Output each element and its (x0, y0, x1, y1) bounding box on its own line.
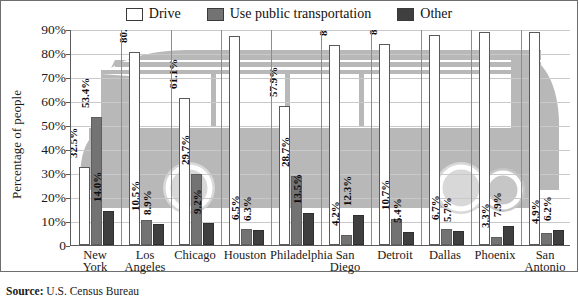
bar-value-label: 80.6% (118, 30, 129, 43)
x-tick-label-line: Philadelphia (270, 249, 320, 261)
bar-public[interactable]: 4.2% (341, 235, 352, 245)
x-axis-tick-labels: NewYorkLosAngelesChicagoHoustonPhiladelp… (70, 249, 570, 275)
legend-entry-label: Drive (149, 7, 181, 21)
y-tick-label: 0 (20, 239, 66, 253)
bar-value-label: 10.7% (380, 180, 391, 210)
bar-value-label: 13.5% (292, 173, 303, 203)
bar-group: 32.5%53.4%14.0% (71, 30, 121, 245)
x-tick-label: Phoenix (470, 249, 520, 261)
x-tick-label: Detroit (370, 249, 420, 261)
bar-other[interactable]: 6.2% (553, 230, 564, 245)
group-separator (421, 30, 422, 245)
bar-value-label: 4.9% (530, 200, 541, 225)
bar-other[interactable]: 13.5% (303, 213, 314, 245)
x-tick-label: Dallas (420, 249, 470, 261)
bar-value-label: 3.3% (480, 203, 491, 228)
bar-group: 88.8%3.3%7.9% (471, 30, 521, 245)
bar-other[interactable]: 5.4% (403, 232, 414, 245)
y-tick-mark (66, 198, 70, 199)
bar-drive[interactable]: 57.9% (279, 106, 290, 245)
bar-value-label: 9.2% (192, 189, 203, 214)
bar-value-label: 28.7% (280, 137, 291, 167)
bar-value-label: 4.2% (330, 201, 341, 226)
x-tick-label: SanAntonio (520, 249, 570, 273)
bar-value-label: 5.7% (442, 198, 453, 223)
x-tick-label-line: Phoenix (470, 249, 520, 261)
bar-drive[interactable]: 32.5% (79, 167, 90, 245)
y-tick-label: 10% (20, 215, 66, 229)
x-tick-label-line: Dallas (420, 249, 470, 261)
bar-value-label: 6.3% (242, 196, 253, 221)
bar-drive[interactable]: 61.1% (179, 98, 190, 245)
source-note: Source: U.S. Census Bureau (6, 286, 139, 298)
bar-group: 88.9%4.9%6.2% (521, 30, 570, 245)
group-separator (171, 30, 172, 245)
bar-drive[interactable]: 83.9% (379, 44, 390, 245)
x-tick-label-line: Houston (220, 249, 270, 261)
bar-value-label: 6.5% (230, 196, 241, 221)
bar-public[interactable]: 4.9% (541, 233, 552, 245)
bar-value-label: 5.4% (392, 198, 403, 223)
bar-value-label: 8.9% (142, 190, 153, 215)
bar-other[interactable]: 12.3% (353, 215, 364, 245)
bar-other[interactable]: 6.3% (253, 230, 264, 245)
group-separator (271, 30, 272, 245)
y-tick-mark (66, 246, 70, 247)
bar-public[interactable]: 3.3% (491, 237, 502, 245)
bar-value-label: 14.0% (92, 172, 103, 202)
bar-group: 57.9%28.7%13.5% (271, 30, 321, 245)
y-tick-mark (66, 54, 70, 55)
bar-other[interactable]: 14.0% (103, 211, 114, 245)
y-tick-label: 40% (20, 143, 66, 157)
y-axis-tick-labels: 010%20%30%40%50%60%70%80%90% (14, 30, 66, 246)
bar-value-label: 12.3% (342, 176, 353, 206)
x-tick-label-line: Chicago (170, 249, 220, 261)
legend-swatch-public (207, 8, 224, 21)
source-label: Source: (6, 285, 43, 297)
group-separator (521, 30, 522, 245)
y-tick-label: 60% (20, 95, 66, 109)
bar-other[interactable]: 5.7% (453, 231, 464, 245)
bar-drive[interactable]: 80.6% (129, 52, 140, 245)
bar-public[interactable]: 6.7% (441, 229, 452, 245)
bar-public[interactable]: 10.7% (391, 219, 402, 245)
legend-swatch-drive (126, 8, 143, 21)
y-tick-mark (66, 222, 70, 223)
group-separator (121, 30, 122, 245)
bar-value-label: 32.5% (70, 128, 79, 158)
bar-value-label: 6.7% (430, 195, 441, 220)
bar-group: 87.2%6.5%6.3% (221, 30, 271, 245)
x-tick-label: SanDiego (320, 249, 370, 273)
bar-other[interactable]: 7.9% (503, 226, 514, 245)
x-tick-label: Chicago (170, 249, 220, 261)
y-tick-label: 80% (20, 47, 66, 61)
x-tick-label-line: York (70, 261, 120, 273)
x-tick-label-line: Detroit (370, 249, 420, 261)
legend-entry-1: Use public transportation (207, 7, 372, 21)
chart-legend: DriveUse public transportationOther (0, 4, 578, 24)
legend-entry-0: Drive (126, 7, 181, 21)
bar-value-label: 10.5% (130, 181, 141, 211)
bar-other[interactable]: 8.9% (153, 224, 164, 245)
plot-area: 32.5%53.4%14.0%80.6%10.5%8.9%61.1%29.7%9… (70, 30, 570, 246)
y-tick-label: 30% (20, 167, 66, 181)
bar-group: 83.9%10.7%5.4% (371, 30, 421, 245)
x-tick-label-line: Diego (320, 261, 370, 273)
x-tick-label: NewYork (70, 249, 120, 273)
y-tick-mark (66, 150, 70, 151)
plot-area-wrapper: 32.5%53.4%14.0%80.6%10.5%8.9%61.1%29.7%9… (70, 30, 570, 246)
y-tick-mark (66, 102, 70, 103)
bar-public[interactable]: 6.5% (241, 229, 252, 245)
legend-entry-label: Use public transportation (230, 7, 372, 21)
group-separator (371, 30, 372, 245)
group-separator (471, 30, 472, 245)
chart-figure: DriveUse public transportationOther Perc… (0, 0, 579, 305)
bar-group: 87.7%6.7%5.7% (421, 30, 471, 245)
bar-public[interactable]: 10.5% (141, 220, 152, 245)
y-tick-mark (66, 30, 70, 31)
group-separator (321, 30, 322, 245)
y-tick-label: 20% (20, 191, 66, 205)
y-tick-mark (66, 126, 70, 127)
bar-other[interactable]: 9.2% (203, 223, 214, 245)
bar-group: 61.1%29.7%9.2% (171, 30, 221, 245)
